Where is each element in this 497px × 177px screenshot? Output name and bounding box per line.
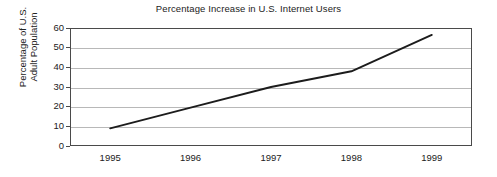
y-axis-tick-mark: [66, 146, 70, 147]
y-axis-tick-mark: [66, 67, 70, 68]
y-axis-tick-mark: [66, 87, 70, 88]
x-axis-tick-label: 1996: [171, 152, 211, 163]
data-line: [110, 35, 432, 128]
y-axis-tick-label: 50: [36, 41, 64, 52]
y-axis-tick-label: 0: [36, 140, 64, 151]
y-axis-tick-label: 30: [36, 81, 64, 92]
chart-title: Percentage Increase in U.S. Internet Use…: [0, 3, 497, 14]
y-axis-tick-label: 40: [36, 61, 64, 72]
x-axis-tick-label: 1998: [331, 152, 371, 163]
y-axis-tick-mark: [66, 126, 70, 127]
x-axis-tick-label: 1997: [251, 152, 291, 163]
y-axis-tick-label: 20: [36, 100, 64, 111]
y-axis-title-line-1: Percentage of U.S.: [17, 7, 29, 87]
chart-container: Percentage Increase in U.S. Internet Use…: [0, 0, 497, 177]
y-axis-tick-label: 10: [36, 120, 64, 131]
y-axis-tick-mark: [66, 106, 70, 107]
y-axis-tick-mark: [66, 47, 70, 48]
x-axis-tick-label: 1995: [90, 152, 130, 163]
data-line-series: [70, 28, 472, 146]
y-axis-tick-label: 60: [36, 22, 64, 33]
x-axis-tick-label: 1999: [412, 152, 452, 163]
y-axis-tick-mark: [66, 28, 70, 29]
